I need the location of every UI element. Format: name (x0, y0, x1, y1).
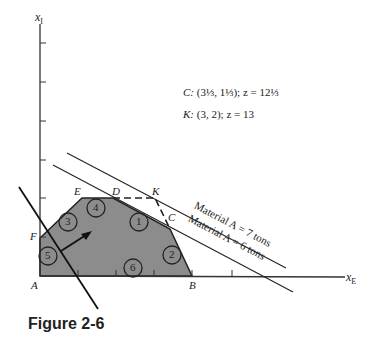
x-axis-label: xE (346, 270, 356, 286)
constraint-label-6: 6 (130, 261, 136, 273)
figure-caption: Figure 2-6 (28, 315, 104, 333)
vertex-label-d: D (112, 185, 120, 197)
y-axis-label: xI (35, 10, 43, 26)
annotation-c: C: (3⅓, 1⅓); z = 12⅓ (183, 86, 279, 98)
constraint-label-4: 4 (93, 201, 99, 213)
vertex-label-f: F (30, 230, 37, 242)
vertex-label-e: E (74, 185, 81, 197)
constraint-label-5: 5 (45, 249, 51, 261)
vertex-label-a: A (31, 279, 38, 291)
vertex-label-c: C (168, 211, 175, 223)
vertex-label-b: B (189, 279, 196, 291)
annotation-k: K: (3, 2); z = 13 (183, 108, 254, 120)
constraint-label-2: 2 (169, 248, 175, 260)
vertex-label-k: K (152, 185, 159, 197)
constraint-label-3: 3 (65, 215, 71, 227)
constraint-label-1: 1 (136, 215, 142, 227)
